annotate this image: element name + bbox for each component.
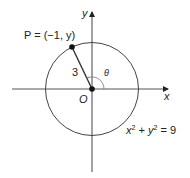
y-axis-label: y [81,7,89,19]
origin-label: O [79,93,88,105]
angle-label: θ [104,68,109,78]
x-axis-label: x [163,90,170,102]
point-p [69,44,75,50]
origin-point [89,86,95,92]
point-p-label: P = (−1, y) [24,29,75,41]
segment-length-label: 3 [72,66,78,78]
circle-equation: x2 + y2 = 9 [125,124,176,136]
diagram-canvas: y x O P = (−1, y) 3 θ x2 + y2 = 9 [0,0,190,178]
